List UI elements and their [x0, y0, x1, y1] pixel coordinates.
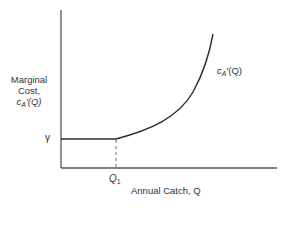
curve-label: cA'(Q) [217, 65, 242, 79]
q1-label: Q1 [109, 173, 121, 187]
marginal-cost-curve [116, 34, 213, 139]
y-axis-label-fn: cA'(Q) [2, 96, 56, 110]
q1-subscript: 1 [117, 178, 121, 185]
y-axis-label: Marginal Cost, cA'(Q) [2, 74, 56, 110]
gamma-label: γ [45, 132, 50, 143]
y-axis-label-line1: Marginal [2, 74, 56, 85]
q1-symbol: Q [109, 173, 117, 184]
y-axis-label-line2: Cost, [2, 85, 56, 96]
x-axis-label: Annual Catch, Q [131, 185, 201, 196]
curve-fn-arg: '(Q) [226, 65, 242, 76]
fn-arg: '(Q) [26, 96, 42, 107]
